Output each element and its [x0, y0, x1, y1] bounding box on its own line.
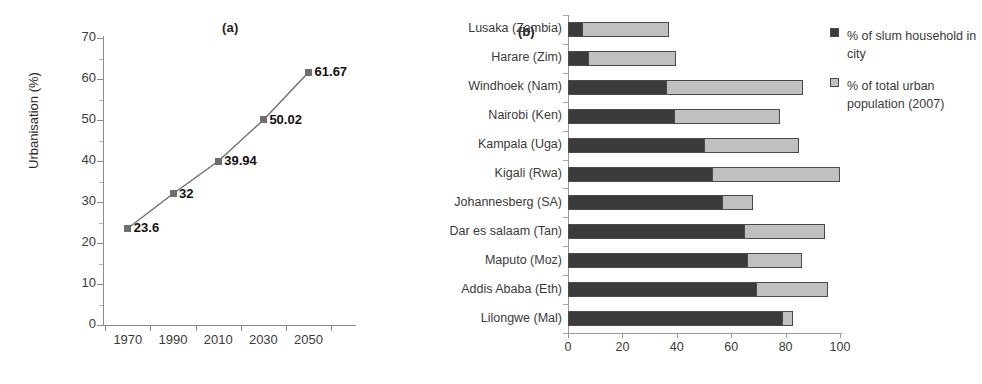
panel-b-x-tick-mark: [677, 333, 678, 338]
panel-a-y-tick-mark: [97, 79, 103, 80]
chart-panel-b: (b) Lusaka (Zambia)Harare (Zim)Windhoek …: [390, 0, 982, 384]
panel-b-bar: [568, 167, 840, 182]
panel-b-y-tick-mark: [563, 246, 568, 247]
panel-b-x-tick-label: 20: [602, 340, 642, 354]
figure-container: (a) Urbanisation (%) 706050403020100 197…: [0, 0, 982, 384]
panel-b-bar: [568, 224, 825, 239]
panel-a-data-point-label: 32: [179, 186, 193, 201]
panel-b-bar-segment-slum-household: [568, 167, 713, 182]
panel-a-x-tick-mark: [241, 325, 242, 331]
legend-swatch-icon: [830, 28, 839, 37]
panel-b-bar-segment-slum-household: [568, 311, 783, 326]
panel-b-category-label: Lilongwe (Mal): [372, 311, 562, 325]
panel-a-y-axis-label: Urbanisation (%): [26, 26, 41, 216]
panel-a-x-tick-mark: [331, 325, 332, 331]
panel-b-y-tick-mark: [563, 102, 568, 103]
panel-b-bar-segment-slum-household: [568, 80, 667, 95]
panel-a-y-minor-tick-mark: [99, 141, 103, 142]
panel-a-y-minor-tick-mark: [99, 182, 103, 183]
panel-a-y-minor-tick-mark: [99, 223, 103, 224]
panel-a-y-tick-mark: [97, 120, 103, 121]
panel-b-x-tick-mark: [731, 333, 732, 338]
legend-label: % of slum household in city: [847, 29, 976, 61]
panel-b-category-label: Maputo (Moz): [372, 253, 562, 267]
panel-b-bar-segment-slum-household: [568, 109, 675, 124]
panel-a-x-tick-label: 2050: [279, 332, 339, 347]
panel-b-x-tick-mark: [786, 333, 787, 338]
panel-b-bar-segment-slum-household: [568, 253, 748, 268]
panel-b-category-label: Kigali (Rwa): [372, 166, 562, 180]
panel-a-y-axis-line: [103, 36, 104, 326]
panel-b-bar: [568, 282, 828, 297]
panel-a-y-minor-tick-mark: [99, 305, 103, 306]
panel-b-bar-segment-slum-household: [568, 22, 583, 37]
panel-a-x-tick-mark: [105, 325, 106, 331]
panel-a-y-tick-label: 60: [62, 71, 96, 84]
panel-b-y-tick-mark: [563, 73, 568, 74]
panel-b-y-tick-mark: [563, 217, 568, 218]
panel-b-y-tick-mark: [563, 131, 568, 132]
panel-b-category-label: Nairobi (Ken): [372, 108, 562, 122]
panel-b-category-label: Addis Ababa (Eth): [372, 282, 562, 296]
panel-a-x-tick-mark: [196, 325, 197, 331]
panel-b-x-tick-label: 40: [657, 340, 697, 354]
panel-b-category-label: Lusaka (Zambia): [372, 21, 562, 35]
panel-b-x-axis-line: [568, 333, 842, 334]
panel-b-y-tick-mark: [563, 304, 568, 305]
panel-a-x-axis-line: [103, 325, 356, 326]
panel-b-bar-segment-slum-household: [568, 138, 705, 153]
panel-a-y-minor-tick-mark: [99, 264, 103, 265]
panel-a-data-point-marker: [305, 69, 312, 76]
panel-b-category-label: Dar es salaam (Tan): [372, 224, 562, 238]
panel-a-y-tick-label: 40: [62, 153, 96, 166]
panel-a-y-tick-label: 0: [62, 317, 96, 330]
panel-b-x-tick-label: 60: [711, 340, 751, 354]
panel-b-legend: % of slum household in city% of total ur…: [830, 26, 980, 126]
panel-b-bar: [568, 80, 803, 95]
panel-a-x-tick-mark: [150, 325, 151, 331]
panel-b-bar-segment-slum-household: [568, 51, 589, 66]
panel-b-bar-segment-slum-household: [568, 224, 745, 239]
panel-a-y-tick-label: 20: [62, 235, 96, 248]
panel-b-y-tick-mark: [563, 44, 568, 45]
panel-b-category-label: Kampala (Uga): [372, 137, 562, 151]
panel-b-bar: [568, 253, 802, 268]
panel-b-category-label: Johannesberg (SA): [372, 195, 562, 209]
panel-a-data-point-marker: [215, 158, 222, 165]
panel-a-y-tick-mark: [97, 161, 103, 162]
panel-b-x-tick-label: 80: [766, 340, 806, 354]
panel-a-y-minor-tick-mark: [99, 59, 103, 60]
panel-a-x-tick-mark: [286, 325, 287, 331]
panel-b-x-tick-label: 100: [820, 340, 860, 354]
panel-b-x-tick-mark: [568, 333, 569, 338]
legend-entry: % of total urban population (2007): [830, 76, 980, 112]
panel-a-y-minor-tick-mark: [99, 100, 103, 101]
panel-b-y-tick-mark: [563, 160, 568, 161]
panel-b-bar: [568, 109, 780, 124]
panel-b-category-label: Windhoek (Nam): [372, 79, 562, 93]
panel-a-y-tick-label: 50: [62, 112, 96, 125]
panel-a-data-point-label: 39.94: [224, 153, 257, 168]
panel-a-y-tick-mark: [97, 202, 103, 203]
chart-panel-a: (a) Urbanisation (%) 706050403020100 197…: [0, 0, 390, 384]
panel-b-x-tick-mark: [840, 333, 841, 338]
legend-label: % of total urban population (2007): [847, 79, 944, 111]
panel-b-bar-segment-slum-household: [568, 282, 757, 297]
legend-entry: % of slum household in city: [830, 26, 980, 62]
panel-b-bar: [568, 51, 676, 66]
panel-b-bar-segment-slum-household: [568, 195, 723, 210]
panel-a-data-point-label: 50.02: [269, 112, 302, 127]
panel-a-y-tick-mark: [97, 325, 103, 326]
panel-b-y-tick-mark: [563, 188, 568, 189]
panel-b-x-tick-mark: [622, 333, 623, 338]
panel-a-y-tick-label: 10: [62, 276, 96, 289]
panel-b-category-label: Harare (Zim): [372, 50, 562, 64]
panel-a-tag: (a): [222, 20, 239, 35]
panel-a-y-tick-mark: [97, 284, 103, 285]
panel-a-y-tick-label: 70: [62, 30, 96, 43]
panel-b-bar-segment-total-urban-population: [568, 22, 669, 37]
panel-b-bar: [568, 22, 669, 37]
panel-a-data-point-label: 61.67: [315, 64, 348, 79]
panel-b-y-tick-mark: [563, 15, 568, 16]
panel-a-y-tick-mark: [97, 243, 103, 244]
